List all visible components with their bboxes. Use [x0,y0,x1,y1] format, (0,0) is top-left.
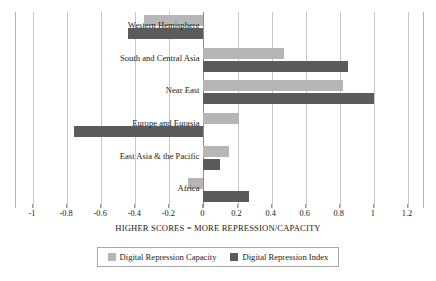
x-tick-mark [134,204,135,208]
bar-index [203,93,373,104]
x-tick-label: 0.6 [299,209,309,218]
bar-capacity [203,80,343,91]
x-tick-mark [373,204,374,208]
bar-capacity [203,48,283,59]
bar-capacity [203,146,229,157]
x-tick-label: -0.6 [94,209,107,218]
bar-group: Europe and Eurasia [16,110,423,143]
legend-entry[interactable]: Digital Repression Capacity [108,252,217,262]
bar-index [203,159,220,170]
bar-group: Western Hemisphere [16,12,423,45]
x-tick-mark [407,204,408,208]
x-tick-label: 0.4 [265,209,275,218]
legend-label: Digital Repression Capacity [120,252,217,262]
x-tick-label: 1 [371,209,375,218]
x-axis: -1-0.8-0.6-0.4-0.200.20.40.60.811.2 [15,208,424,224]
x-axis-title: HIGHER SCORES = MORE REPRESSION/CAPACITY [0,223,436,233]
x-tick-label: 0 [200,209,204,218]
x-tick-mark [271,204,272,208]
legend-label: Digital Repression Index [242,252,328,262]
x-tick-label: 1.2 [402,209,412,218]
category-label: East Asia & the Pacific [120,151,200,162]
x-tick-mark [202,204,203,208]
horizontal-bar-chart: Western HemisphereSouth and Central Asia… [0,0,436,281]
category-label: South and Central Asia [120,53,199,64]
bar-group: South and Central Asia [16,45,423,78]
x-tick-mark [100,204,101,208]
bar-index [203,191,249,202]
legend-swatch-icon [230,253,238,261]
bar-group: Africa [16,175,423,208]
x-tick-mark [305,204,306,208]
bar-group: Near East [16,77,423,110]
x-tick-mark [66,204,67,208]
x-tick-label: 0.2 [231,209,241,218]
x-tick-label: -0.8 [59,209,72,218]
legend-entry[interactable]: Digital Repression Index [230,252,328,262]
plot-area: Western HemisphereSouth and Central Asia… [15,12,424,208]
legend-swatch-icon [108,253,116,261]
bar-index [203,61,348,72]
category-label: Near East [166,85,200,96]
x-tick-mark [237,204,238,208]
category-label: Western Hemisphere [128,20,200,31]
x-tick-mark [168,204,169,208]
bar-capacity [203,113,239,124]
chart-legend: Digital Repression CapacityDigital Repre… [97,247,339,267]
category-label: Africa [178,183,200,194]
x-tick-label: 0.8 [334,209,344,218]
category-label: Europe and Eurasia [132,118,199,129]
x-tick-mark [32,204,33,208]
x-tick-label: -0.4 [128,209,141,218]
x-tick-label: -1 [29,209,36,218]
x-tick-label: -0.2 [162,209,175,218]
x-tick-mark [339,204,340,208]
bar-group: East Asia & the Pacific [16,143,423,176]
